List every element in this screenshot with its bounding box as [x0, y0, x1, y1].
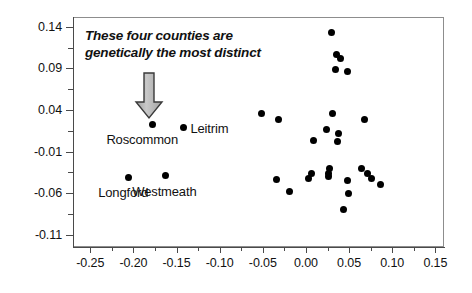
x-axis-minor-tick [414, 247, 415, 251]
x-axis-minor-tick [328, 247, 329, 251]
y-axis-line [73, 17, 74, 248]
scatter-plot-figure: -0.25-0.20-0.15-0.10-0.050.000.050.100.1… [0, 0, 472, 293]
data-point-westmeath [162, 172, 169, 179]
y-axis-minor-tick [68, 172, 73, 173]
x-axis-tick-label: -0.15 [163, 256, 191, 270]
x-axis-tick-label: -0.20 [119, 256, 147, 270]
annotation-text: These four counties are genetically the … [85, 27, 261, 61]
x-axis-tick [220, 247, 221, 253]
x-axis-tick-label: 0.05 [337, 256, 361, 270]
x-axis-tick [349, 247, 350, 253]
x-axis-minor-tick [198, 247, 199, 251]
point-label-westmeath: Westmeath [132, 184, 196, 199]
data-point [340, 206, 347, 213]
data-point [377, 181, 384, 188]
data-point-leitrim [180, 124, 187, 131]
point-label-roscommon: Roscommon [106, 132, 178, 147]
data-point-longford [125, 174, 132, 181]
x-axis-tick [306, 247, 307, 253]
point-label-leitrim: Leitrim [190, 121, 228, 136]
x-axis-tick [435, 247, 436, 253]
y-axis-minor-tick [68, 214, 73, 215]
x-axis-minor-tick [241, 247, 242, 251]
y-axis-minor-tick [68, 89, 73, 90]
y-axis-tick [66, 110, 73, 111]
x-axis-tick-label: -0.25 [76, 256, 104, 270]
data-point [325, 173, 332, 180]
x-axis-tick-label: -0.05 [249, 256, 277, 270]
data-point [337, 55, 344, 62]
x-axis-tick-label: -0.10 [206, 256, 234, 270]
x-axis-line [73, 247, 445, 248]
y-axis-tick [66, 27, 73, 28]
x-axis-minor-tick [371, 247, 372, 251]
y-axis-tick [66, 235, 73, 236]
x-axis-tick [90, 247, 91, 253]
down-arrow-icon [134, 72, 164, 120]
y-axis-tick-label: 0.04 [38, 103, 62, 117]
y-axis-tick-label: -0.11 [35, 228, 62, 242]
data-point [286, 188, 293, 195]
data-point [344, 177, 351, 184]
y-axis-tick [66, 193, 73, 194]
data-point [345, 190, 352, 197]
data-point [332, 66, 339, 73]
x-axis-tick [177, 247, 178, 253]
y-axis-tick-label: 0.09 [38, 61, 62, 75]
y-axis-minor-tick [68, 131, 73, 132]
y-axis-tick [66, 68, 73, 69]
y-axis-tick-label: -0.06 [34, 186, 62, 200]
y-axis-tick-label: 0.14 [38, 20, 62, 34]
x-axis-tick-label: 0.00 [294, 256, 318, 270]
y-axis-tick-label: -0.01 [34, 145, 62, 159]
x-axis-tick [392, 247, 393, 253]
x-axis-minor-tick [284, 247, 285, 251]
x-axis-minor-tick [112, 247, 113, 251]
x-axis-tick-label: 0.15 [423, 256, 447, 270]
x-axis-minor-tick [155, 247, 156, 251]
data-point [329, 110, 336, 117]
x-axis-tick [133, 247, 134, 253]
data-point [335, 130, 342, 137]
y-axis-minor-tick [68, 48, 73, 49]
x-axis-tick [263, 247, 264, 253]
x-axis-tick-label: 0.10 [380, 256, 404, 270]
y-axis-tick [66, 152, 73, 153]
